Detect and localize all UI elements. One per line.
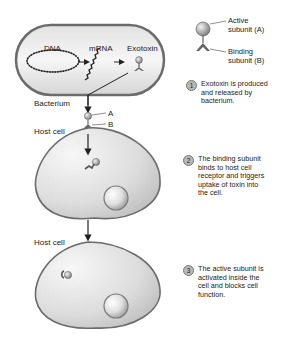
step-3: 3 The active subunit is activated inside… [183,265,264,299]
host-cell-2-label: Host cell [34,238,65,247]
step-2-number-badge: 2 [183,155,194,166]
step-2-text: The binding subunit binds to host cell r… [198,155,264,198]
step-2: 2 The binding subunit binds to host cell… [183,155,264,198]
dna-label: DNA [44,44,61,53]
exotoxin-label: Exotoxin [127,44,158,53]
legend-toxin-icon [196,21,226,52]
bacterium-label: Bacterium [34,99,70,108]
toxin-binding-icon [83,112,106,129]
step-1-number-badge: 1 [186,80,197,91]
legend-binding-label: Binding subunit (B) [228,47,264,65]
legend-active-label: Active subunit (A) [228,16,264,34]
host-cell-1-membrane [35,128,160,219]
host-cell-1-label: Host cell [34,127,65,136]
legend-active-subunit-icon [196,22,210,36]
step-1: 1 Exotoxin is produced and released by b… [186,80,268,106]
bacterium [16,25,164,105]
step-3-text: The active subunit is activated inside t… [198,265,264,299]
step-1-text: Exotoxin is produced and released by bac… [201,80,268,106]
step-3-number-badge: 3 [183,265,194,276]
mrna-label: mRNA [89,44,113,53]
host-cell-1-nucleus [104,186,128,210]
legend-binding-subunit-icon [196,43,210,51]
active-subunit-a-icon [84,112,91,119]
host-cell-1 [35,128,160,219]
marker-b-label: B [108,120,113,129]
host-cell-2-nucleus [104,294,128,318]
host-cell-2-membrane [35,242,160,328]
host-cell-2 [35,242,160,328]
marker-a-label: A [108,109,113,118]
